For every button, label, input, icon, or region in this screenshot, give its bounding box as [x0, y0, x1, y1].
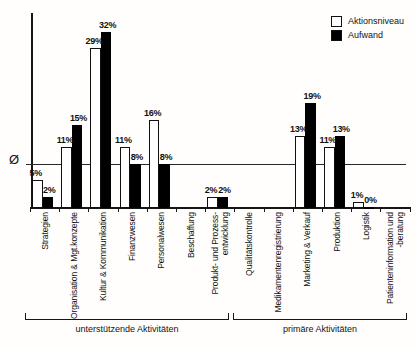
x-axis-tick [30, 207, 31, 212]
bar-aufwand [130, 164, 141, 208]
bar-value-label: 5% [23, 168, 49, 178]
x-axis-tick [176, 207, 177, 212]
x-axis-tick [59, 207, 60, 212]
x-axis-tick [264, 207, 265, 212]
chart-legend: Aktionsniveau Aufwand [331, 14, 404, 42]
x-axis-tick [234, 207, 235, 212]
x-axis-tick [118, 207, 119, 212]
legend-label-aktionsniveau: Aktionsniveau [348, 16, 404, 26]
bar-aktionsniveau [61, 147, 72, 208]
x-axis-tick [293, 207, 294, 212]
bar-aufwand [364, 207, 375, 209]
black-bar-swatch-icon [331, 30, 342, 41]
bar-value-label: 8% [124, 152, 150, 162]
bar-aufwand [43, 197, 54, 208]
bar-value-label: 2% [36, 185, 62, 195]
legend-item-aufwand: Aufwand [331, 28, 404, 42]
bar-value-label: 0% [357, 195, 383, 205]
x-axis-tick [322, 207, 323, 212]
bar-value-label: 11% [52, 135, 78, 145]
bar-value-label: 19% [299, 91, 325, 101]
average-symbol: Ø [9, 153, 19, 166]
bar-chart-figure: Aktionsniveau Aufwand Ø 5%2%11%15%29%32%… [0, 0, 417, 348]
bar-aktionsniveau [207, 197, 218, 208]
bar-aktionsniveau [90, 48, 101, 208]
bar-aufwand [101, 32, 112, 208]
x-axis-tick [88, 207, 89, 212]
bar-value-label: 2% [211, 185, 237, 195]
bar-value-label: 11% [315, 135, 341, 145]
x-axis-tick [380, 207, 381, 212]
bar-aufwand [159, 164, 170, 208]
x-axis-tick [147, 207, 148, 212]
x-axis-tick [410, 207, 411, 212]
group-label-primaere: primäre Aktivitäten [233, 324, 407, 334]
bar-aktionsniveau [295, 136, 306, 208]
y-axis [31, 13, 33, 208]
bar-value-label: 16% [140, 108, 166, 118]
legend-item-aktionsniveau: Aktionsniveau [331, 14, 404, 28]
bar-value-label: 32% [95, 20, 121, 30]
x-axis-tick [351, 207, 352, 212]
bar-aufwand [305, 103, 316, 208]
bar-value-label: 8% [153, 152, 179, 162]
bar-value-label: 15% [65, 113, 91, 123]
group-bracket-primaere [233, 313, 407, 320]
white-bar-swatch-icon [331, 16, 342, 27]
bar-aktionsniveau [324, 147, 335, 208]
bar-value-label: 13% [286, 124, 312, 134]
bar-value-label: 11% [110, 135, 136, 145]
bar-aktionsniveau [149, 120, 160, 208]
average-reference-line [26, 164, 406, 165]
bar-value-label: 29% [81, 36, 107, 46]
group-bracket-unterstuetzende [25, 313, 229, 320]
group-label-unterstuetzende: unterstützende Aktivitäten [25, 324, 229, 334]
bar-aufwand [218, 197, 229, 208]
bar-value-label: 13% [328, 124, 354, 134]
x-axis-tick [205, 207, 206, 212]
legend-label-aufwand: Aufwand [348, 30, 383, 40]
